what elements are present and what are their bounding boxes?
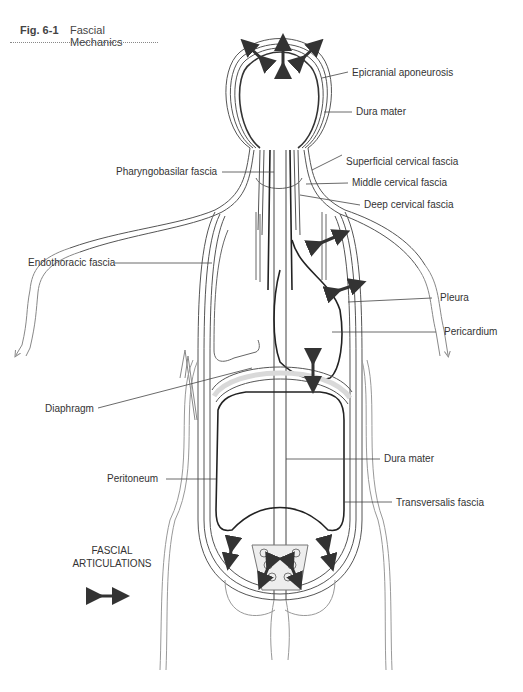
label-pharyngobasilar-fascia: Pharyngobasilar fascia	[116, 166, 217, 178]
peritoneum-outline	[216, 392, 344, 530]
label-epicranial-aponeurosis: Epicranial aponeurosis	[352, 67, 453, 79]
leader-lines	[98, 72, 436, 502]
label-dura-mater-spinal: Dura mater	[384, 453, 434, 465]
legend-fascial-articulations: FASCIAL ARTICULATIONS	[62, 544, 162, 570]
label-pleura: Pleura	[440, 292, 469, 304]
lungs	[214, 212, 326, 361]
articulation-arrows	[95, 42, 358, 596]
legend-line-2: ARTICULATIONS	[62, 557, 162, 570]
label-endothoracic-fascia: Endothoracic fascia	[28, 257, 115, 269]
pelvis	[225, 545, 335, 616]
label-superficial-cervical-fascia: Superficial cervical fascia	[346, 156, 458, 168]
articulation-arrow-head-left	[247, 45, 264, 61]
label-dura-mater-cranial: Dura mater	[356, 106, 406, 118]
head	[226, 39, 332, 149]
pericardium-outline	[274, 240, 342, 380]
fascial-mechanics-diagram	[0, 0, 523, 692]
label-deep-cervical-fascia: Deep cervical fascia	[364, 199, 453, 211]
label-middle-cervical-fascia: Middle cervical fascia	[352, 177, 447, 189]
neck	[70, 148, 425, 600]
label-diaphragm: Diaphragm	[45, 403, 94, 415]
arms	[16, 248, 448, 420]
label-peritoneum: Peritoneum	[107, 473, 158, 485]
legend-line-1: FASCIAL	[62, 544, 162, 557]
label-pericardium: Pericardium	[444, 326, 497, 338]
label-transversalis-fascia: Transversalis fascia	[396, 497, 484, 509]
